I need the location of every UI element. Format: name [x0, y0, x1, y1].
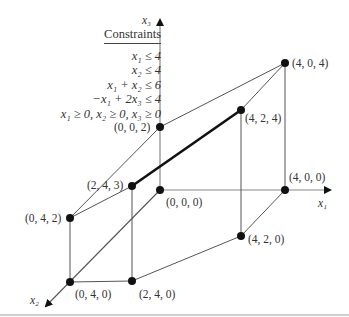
constraint-row: x₁ ≤ 4 — [61, 49, 161, 64]
constraints-title: Constraints — [104, 27, 161, 44]
vertex-label-000: (0, 0, 0) — [166, 196, 203, 209]
vertex-404 — [281, 59, 289, 67]
vertex-400 — [281, 186, 289, 194]
vertex-label-042: (0, 4, 2) — [25, 212, 62, 225]
constraints-box: Constraints x₁ ≤ 4 x₂ ≤ 4 x₁ + x₂ ≤ 6 −x… — [61, 27, 161, 121]
constraint-row: −x₁ + 2x₃ ≤ 4 — [61, 92, 161, 107]
constraint-row: x₂ ≤ 4 — [61, 63, 161, 78]
vertex-040 — [66, 278, 74, 286]
vertex-label-240: (2, 4, 0) — [139, 288, 176, 301]
x1-axis-label: x₁ — [317, 197, 327, 209]
vertex-label-420: (4, 2, 0) — [248, 233, 285, 246]
vertex-label-040: (0, 4, 0) — [75, 288, 112, 301]
bottom-divider — [0, 314, 349, 316]
vertex-label-424: (4, 2, 4) — [245, 112, 282, 125]
x3-axis-label: x₃ — [141, 14, 151, 26]
feasible-region-diagram: x₃ x₁ x₂ (0, 0, 0) (0, 0, 2) (4, 0, 4) (… — [0, 0, 349, 317]
vertex-label-404: (4, 0, 4) — [292, 57, 329, 70]
x2-axis-label: x₂ — [29, 294, 39, 306]
vertex-000 — [156, 186, 164, 194]
constraint-row: x₁ + x₂ ≤ 6 — [61, 78, 161, 93]
vertex-420 — [237, 232, 245, 240]
vertex-label-243: (2, 4, 3) — [87, 179, 124, 192]
constraint-row: x₁ ≥ 0, x₂ ≥ 0, x₃ ≥ 0 — [61, 107, 161, 122]
vertex-label-002: (0, 0, 2) — [114, 121, 151, 134]
vertex-label-400: (4, 0, 0) — [289, 171, 326, 184]
vertex-243 — [128, 182, 136, 190]
vertex-240 — [128, 277, 136, 285]
vertex-424 — [237, 106, 245, 114]
vertex-002 — [156, 123, 164, 131]
vertex-042 — [66, 214, 74, 222]
